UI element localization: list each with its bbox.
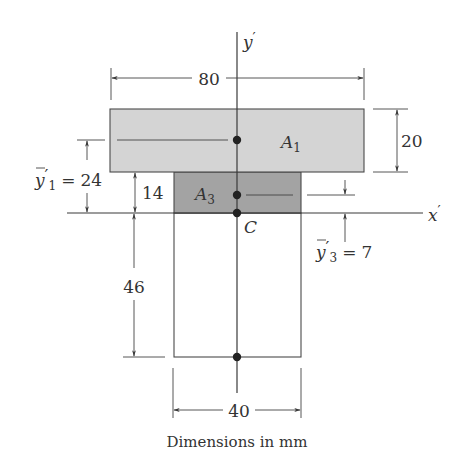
a3-centroid-dot [233, 191, 241, 199]
dim-46-label: 46 [123, 277, 145, 297]
centroid-c-dot [233, 209, 241, 217]
figure-caption: Dimensions in mm [167, 433, 308, 451]
dim-y1-label: y′1=24 [34, 165, 102, 193]
dim-14-label: 14 [142, 183, 164, 203]
dim-20-label: 20 [401, 131, 423, 151]
dim-40-label: 40 [228, 401, 250, 421]
x-prime-axis-label: x′ [428, 203, 441, 225]
composite-area-diagram: y′ x′ 80 20 A1 y′1=24 14 A3 C y′3=7 [0, 0, 471, 462]
a1-centroid-dot [233, 136, 241, 144]
centroid-c-label: C [244, 217, 257, 237]
area-2-bottom-dot [233, 353, 241, 361]
y-prime-axis-label: y′ [242, 30, 256, 52]
dim-y3-label: y′3=7 [315, 237, 372, 265]
dim-80-label: 80 [198, 69, 220, 89]
